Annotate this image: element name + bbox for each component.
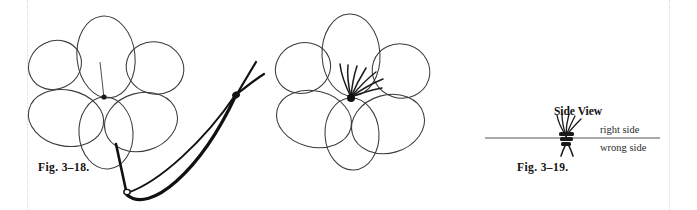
five-petal-flower-outline <box>20 13 190 171</box>
five-petal-flower-with-thread-loop-art <box>0 0 280 210</box>
figure-3-18: Fig. 3–18. <box>0 0 280 210</box>
label-right-side: right side <box>600 124 639 135</box>
stitch-tails-below <box>561 146 573 156</box>
five-petal-flower-with-stamens-art <box>255 0 470 210</box>
flower-center-knot-icon <box>347 94 355 102</box>
label-wrong-side: wrong side <box>600 142 646 153</box>
stamen-fan <box>340 64 383 97</box>
stitch-knot-icon <box>559 132 574 146</box>
thread-eyelet-icon <box>124 189 130 194</box>
figure-plate: Fig. 3–18. Fig. 3–19. <box>0 0 697 210</box>
flower-center-knot-icon <box>101 94 106 99</box>
figure-caption-3-18: Fig. 3–18. <box>38 161 90 173</box>
five-petal-flower-outline <box>268 13 437 172</box>
petal-crease-line <box>100 62 104 98</box>
side-view-title: Side View <box>528 105 628 117</box>
figure-3-20: Side View right side wrong side Fig. 3–2… <box>470 0 697 210</box>
figure-3-19: Fig. 3–19. <box>255 0 470 210</box>
